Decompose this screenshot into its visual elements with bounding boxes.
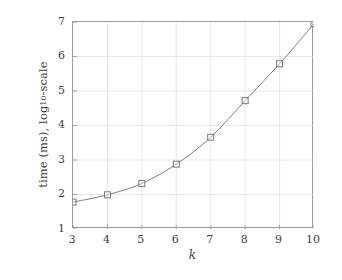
data-point-marker — [277, 61, 283, 67]
y-axis-label-prefix: time (ms), log — [36, 106, 50, 188]
data-point-marker — [104, 192, 110, 198]
y-axis-tick-label: 4 — [43, 119, 65, 130]
x-axis-tick-label: 7 — [198, 234, 222, 245]
plot-area — [72, 21, 313, 228]
data-point-marker — [311, 22, 314, 27]
y-axis-tick-label: 6 — [43, 50, 65, 61]
x-axis-tick-label: 9 — [267, 234, 291, 245]
y-axis-label-subscript: 10 — [39, 95, 48, 105]
x-axis-tick-label: 10 — [301, 234, 325, 245]
x-axis-tick-label: 4 — [94, 234, 118, 245]
x-axis-label: k — [72, 248, 313, 262]
x-axis-tick-label: 5 — [129, 234, 153, 245]
plot-canvas — [73, 22, 314, 229]
data-point-marker — [208, 134, 214, 140]
data-point-marker — [173, 161, 179, 167]
y-axis-tick-label: 2 — [43, 188, 65, 199]
x-axis-tick-label: 6 — [163, 234, 187, 245]
data-point-marker — [139, 180, 145, 186]
data-point-marker — [73, 199, 76, 205]
y-axis-tick-label: 3 — [43, 154, 65, 165]
x-axis-tick-label: 8 — [232, 234, 256, 245]
y-axis-tick-label: 5 — [43, 85, 65, 96]
x-axis-tick-label: 3 — [60, 234, 84, 245]
y-axis-tick-label: 1 — [43, 223, 65, 234]
chart-figure: time (ms), log10-scale 1234567 345678910… — [0, 0, 342, 280]
data-markers — [73, 22, 314, 205]
data-point-marker — [242, 98, 248, 104]
data-line — [73, 24, 314, 202]
y-axis-tick-label: 7 — [43, 16, 65, 27]
